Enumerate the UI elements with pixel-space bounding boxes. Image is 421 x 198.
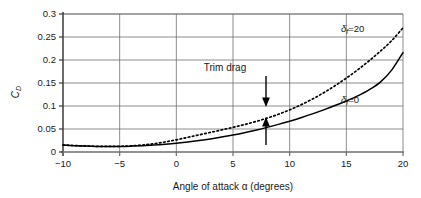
x-tick-label: −5	[114, 158, 125, 169]
svg-text:δf=20: δf=20	[341, 23, 364, 35]
x-tick-label: −10	[55, 158, 71, 169]
series-label-deltaf-20: δf=20	[341, 23, 364, 35]
svg-text:δf=0: δf=0	[341, 94, 359, 106]
x-tick-label: 0	[174, 158, 179, 169]
annotation-trim-drag-label: Trim drag	[204, 62, 246, 73]
y-axis-ticks: 00.050.10.150.20.250.3	[38, 8, 64, 157]
drag-polar-chart: 00.050.10.150.20.250.3 −10−505101520 CD …	[0, 0, 421, 198]
svg-text:CD: CD	[10, 86, 22, 98]
chart-figure: 00.050.10.150.20.250.3 −10−505101520 CD …	[0, 0, 421, 198]
x-tick-label: 20	[398, 158, 409, 169]
y-tick-label: 0.25	[38, 31, 57, 42]
y-tick-label: 0	[51, 146, 56, 157]
x-tick-label: 5	[230, 158, 235, 169]
y-tick-label: 0.3	[43, 8, 56, 19]
x-tick-label: 15	[341, 158, 352, 169]
x-tick-label: 10	[284, 158, 295, 169]
series-label-deltaf-0: δf=0	[341, 94, 359, 106]
y-tick-label: 0.05	[38, 123, 57, 134]
x-axis-title: Angle of attack α (degrees)	[173, 181, 293, 192]
y-axis-title: CD	[10, 86, 22, 98]
y-tick-label: 0.1	[43, 100, 56, 111]
x-axis-ticks: −10−505101520	[55, 152, 408, 169]
y-tick-label: 0.2	[43, 54, 56, 65]
y-tick-label: 0.15	[38, 77, 57, 88]
